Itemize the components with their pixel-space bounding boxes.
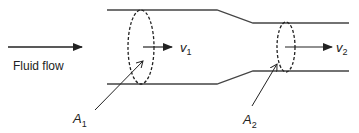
a2-pointer-arrow-icon — [252, 64, 277, 106]
a1-pointer-arrow-icon — [95, 61, 143, 110]
area-a1-symbol: A — [72, 111, 82, 126]
area-a1-subscript: 1 — [82, 119, 87, 129]
area-a2-subscript: 2 — [252, 120, 257, 130]
fluid-flow-diagram: Fluid flow v1 v2 A1 A2 — [0, 0, 359, 133]
velocity-v2-label: v2 — [336, 40, 348, 57]
area-a2-label: A2 — [242, 112, 257, 130]
area-a1-label: A1 — [72, 111, 87, 129]
velocity-v1-subscript: 1 — [187, 47, 192, 57]
velocity-v1-label: v1 — [180, 40, 192, 57]
velocity-v2-subscript: 2 — [343, 47, 348, 57]
area-a2-symbol: A — [242, 112, 252, 127]
pipe-bottom-wall — [107, 71, 349, 84]
pipe-top-wall — [107, 10, 349, 23]
fluid-flow-label: Fluid flow — [13, 59, 64, 73]
